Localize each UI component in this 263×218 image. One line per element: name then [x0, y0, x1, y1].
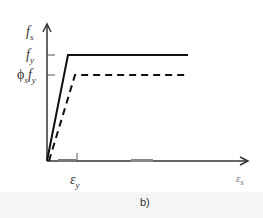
y-axis-label: fs [26, 25, 33, 42]
stress-strain-diagram [0, 0, 263, 218]
epsilon-y-label: εy [70, 173, 80, 190]
phi-fy-label: ϕsfy [17, 68, 36, 85]
axis-smudge [58, 159, 76, 162]
solid-curve [47, 55, 188, 161]
x-axis-label: εs [236, 173, 244, 187]
figure-caption: b) [140, 196, 150, 208]
dashed-curve [49, 75, 188, 161]
axis-smudge [131, 159, 153, 162]
fy-label: fy [26, 48, 34, 65]
